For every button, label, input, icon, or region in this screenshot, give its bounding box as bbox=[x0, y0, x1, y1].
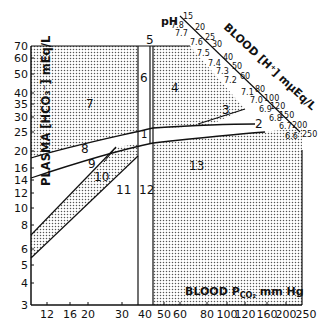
svg-text:12: 12 bbox=[40, 308, 54, 321]
svg-text:160: 160 bbox=[257, 308, 278, 321]
svg-text:5: 5 bbox=[21, 259, 28, 272]
region-label-12: 12 bbox=[139, 183, 154, 197]
svg-text:250: 250 bbox=[296, 308, 317, 321]
svg-text:120: 120 bbox=[235, 308, 256, 321]
svg-text:60: 60 bbox=[173, 308, 187, 321]
y-axis-label: PLASMA [HCO₃⁻] mEq/L bbox=[39, 35, 53, 186]
svg-text:50: 50 bbox=[232, 62, 242, 71]
svg-text:30: 30 bbox=[115, 308, 129, 321]
svg-text:6: 6 bbox=[21, 243, 28, 256]
svg-text:60: 60 bbox=[14, 52, 28, 65]
svg-text:25: 25 bbox=[14, 126, 28, 139]
svg-text:200: 200 bbox=[292, 121, 307, 130]
region-label-8: 8 bbox=[81, 142, 89, 156]
svg-text:20: 20 bbox=[14, 145, 28, 158]
svg-text:7.5: 7.5 bbox=[197, 49, 210, 58]
region-label-5: 5 bbox=[146, 33, 154, 47]
svg-text:35: 35 bbox=[14, 98, 28, 111]
svg-text:6.6: 6.6 bbox=[285, 132, 298, 141]
svg-text:20: 20 bbox=[81, 308, 95, 321]
svg-text:80: 80 bbox=[200, 308, 214, 321]
region-label-4: 4 bbox=[171, 81, 179, 95]
svg-text:40: 40 bbox=[223, 53, 233, 62]
region-label-2: 2 bbox=[255, 117, 263, 131]
svg-text:50: 50 bbox=[157, 308, 171, 321]
svg-text:250: 250 bbox=[302, 130, 317, 139]
region-label-6: 6 bbox=[140, 71, 148, 85]
region-label-11: 11 bbox=[116, 183, 131, 197]
svg-text:120: 120 bbox=[270, 102, 285, 111]
svg-text:7.6: 7.6 bbox=[190, 38, 203, 47]
svg-text:7.3: 7.3 bbox=[216, 67, 229, 76]
region-label-7: 7 bbox=[86, 97, 94, 111]
svg-text:8: 8 bbox=[21, 219, 28, 232]
region-label-9: 9 bbox=[88, 157, 96, 171]
region-label-13: 13 bbox=[189, 159, 204, 173]
y-tick-labels: 70 60 50 40 35 30 25 20 16 14 12 10 8 6 … bbox=[14, 40, 28, 312]
svg-text:6.7: 6.7 bbox=[279, 122, 292, 131]
svg-text:30: 30 bbox=[14, 111, 28, 124]
svg-text:60: 60 bbox=[240, 72, 250, 81]
svg-text:200: 200 bbox=[276, 308, 297, 321]
svg-text:12: 12 bbox=[14, 187, 28, 200]
svg-text:14: 14 bbox=[14, 174, 28, 187]
svg-text:16: 16 bbox=[63, 308, 77, 321]
svg-text:10: 10 bbox=[14, 202, 28, 215]
x-tick-labels: 12 16 20 30 40 50 60 80 100 120 160 200 … bbox=[40, 308, 317, 321]
region-13-shade bbox=[153, 128, 302, 305]
svg-text:50: 50 bbox=[14, 68, 28, 81]
svg-text:40: 40 bbox=[138, 308, 152, 321]
svg-text:15: 15 bbox=[183, 12, 193, 21]
svg-text:30: 30 bbox=[212, 40, 222, 49]
svg-text:80: 80 bbox=[255, 85, 265, 94]
svg-text:4: 4 bbox=[21, 277, 28, 290]
svg-text:7.2: 7.2 bbox=[224, 76, 237, 85]
svg-text:150: 150 bbox=[279, 111, 294, 120]
region-label-10: 10 bbox=[94, 170, 109, 184]
region-label-3: 3 bbox=[222, 103, 230, 117]
acid-base-nomogram: 1 2 3 4 5 6 7 8 9 10 11 12 13 PLASMA [HC… bbox=[0, 0, 331, 327]
svg-text:3: 3 bbox=[21, 299, 28, 312]
svg-text:7.0: 7.0 bbox=[250, 96, 263, 105]
svg-text:20: 20 bbox=[195, 23, 205, 32]
region-label-1: 1 bbox=[141, 129, 147, 140]
svg-text:7.7: 7.7 bbox=[175, 29, 188, 38]
